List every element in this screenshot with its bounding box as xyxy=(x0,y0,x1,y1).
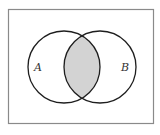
venn-diagram: A B xyxy=(0,0,160,135)
set-b-label: B xyxy=(120,61,129,74)
set-a-label: A xyxy=(33,61,42,74)
